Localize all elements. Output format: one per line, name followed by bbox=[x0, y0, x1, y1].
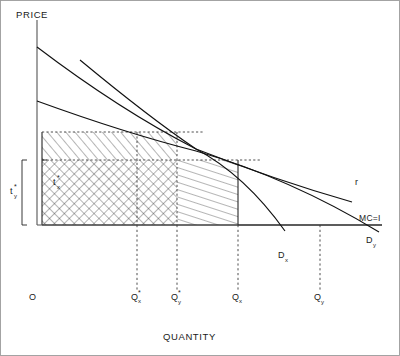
region-tax-revenue-y-upper bbox=[42, 132, 137, 160]
curve-label-dx-sub: x bbox=[285, 257, 288, 263]
curve-label-dy-sub: y bbox=[373, 242, 376, 248]
origin-label: O bbox=[29, 292, 36, 302]
label-t-x-star-sub: x bbox=[57, 184, 60, 190]
region-tax-revenue-y-right bbox=[177, 160, 238, 225]
label-t-y-star-text: t bbox=[10, 186, 13, 196]
tick-star-qx-star: * bbox=[138, 289, 141, 296]
curve-label-dx-text: D bbox=[278, 250, 285, 260]
diagram-canvas: PRICE QUANTITY O Q x * Q y * Q x Q y D x bbox=[0, 0, 400, 356]
tick-sub-qy-star: y bbox=[178, 299, 181, 305]
tick-label-qy-star: Q bbox=[171, 292, 178, 302]
label-t-y-star-star: * bbox=[14, 183, 17, 190]
tick-label-qx-star: Q bbox=[131, 292, 138, 302]
price-axis-title: PRICE bbox=[16, 9, 48, 20]
label-t-x-star-star: * bbox=[57, 174, 60, 181]
label-t-y-star: t y * bbox=[10, 183, 17, 199]
curve-label-dy: D y bbox=[366, 235, 376, 248]
curve-label-mc: MC=I bbox=[359, 213, 381, 223]
tick-group-qx: Q x bbox=[232, 292, 242, 304]
curve-label-dy-text: D bbox=[366, 235, 373, 245]
curve-label-r: r bbox=[355, 177, 358, 187]
label-t-y-star-sub: y bbox=[14, 193, 17, 199]
quantity-axis-title: QUANTITY bbox=[163, 331, 216, 342]
region-tax-revenue-x bbox=[42, 160, 177, 225]
tick-sub-qx-star: x bbox=[138, 298, 141, 304]
tick-label-qx: Q bbox=[232, 292, 239, 302]
tick-group-qy: Q y bbox=[314, 292, 324, 305]
curve-label-dx: D x bbox=[278, 250, 288, 263]
tick-star-qy-star: * bbox=[178, 289, 181, 296]
tick-sub-qy: y bbox=[321, 299, 324, 305]
tick-label-qy: Q bbox=[314, 292, 321, 302]
tick-group-qx-star: Q x * bbox=[131, 289, 141, 304]
tick-sub-qx: x bbox=[239, 298, 242, 304]
bracket-t-y-star bbox=[22, 160, 27, 225]
tick-group-qy-star: Q y * bbox=[171, 289, 181, 305]
economics-diagram: PRICE QUANTITY O Q x * Q y * Q x Q y D x bbox=[0, 0, 400, 356]
